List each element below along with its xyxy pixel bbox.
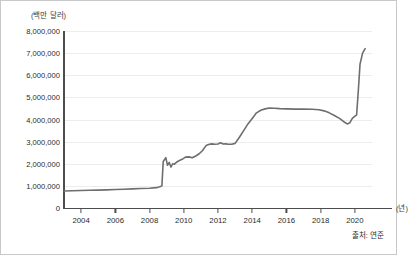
x-axis-tick-mark (81, 208, 82, 213)
x-axis-spine (63, 208, 392, 209)
x-axis-tick-label: 2006 (107, 216, 124, 225)
x-axis-tick-label: 2016 (278, 216, 295, 225)
y-axis-tick-label: 3,000,000 (26, 137, 60, 146)
x-axis-tick-mark (149, 208, 150, 213)
x-axis-tick-mark (217, 208, 218, 213)
y-axis-tick-label: 8,000,000 (26, 27, 60, 36)
x-axis-tick-label: 2014 (244, 216, 261, 225)
y-axis-unit-label: (백만 달러) (31, 9, 66, 20)
y-axis-tick-label: 6,000,000 (26, 71, 60, 80)
source-note: 출처: 연준 (352, 229, 384, 240)
x-axis-tick-label: 2020 (346, 216, 363, 225)
x-axis-tick-mark (354, 208, 355, 213)
plot-area: 8,000,0007,000,0006,000,0005,000,0004,00… (64, 31, 372, 208)
y-axis-tick-label: 4,000,000 (26, 115, 60, 124)
x-axis-tick-mark (115, 208, 116, 213)
x-axis-tick-label: 2012 (209, 216, 226, 225)
y-axis-zero-label: 0 (56, 204, 60, 213)
x-axis-tick-mark (320, 208, 321, 213)
x-axis-tick-mark (183, 208, 184, 213)
y-axis-tick-label: 1,000,000 (26, 181, 60, 190)
y-axis-tick-label: 5,000,000 (26, 93, 60, 102)
y-axis-tick-label: 2,000,000 (26, 159, 60, 168)
x-axis-unit-label: (년) (396, 202, 408, 213)
series-line-layer (64, 31, 372, 208)
x-axis-tick-mark (286, 208, 287, 213)
x-axis-tick-label: 2010 (175, 216, 192, 225)
x-axis-tick-label: 2008 (141, 216, 158, 225)
chart-figure: (백만 달러) 8,000,0007,000,0006,000,0005,000… (0, 0, 397, 255)
series-line-fed-assets (64, 49, 365, 191)
y-axis-tick-label: 7,000,000 (26, 49, 60, 58)
x-axis-tick-mark (252, 208, 253, 213)
x-axis-tick-label: 2018 (312, 216, 329, 225)
x-axis-tick-label: 2004 (72, 216, 89, 225)
